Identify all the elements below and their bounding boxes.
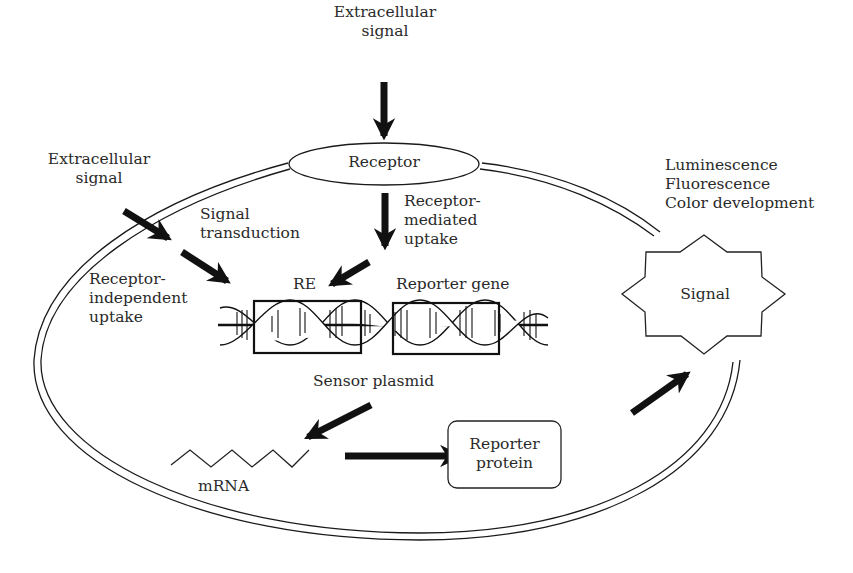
arrow-plasmid-to-mrna [308, 405, 371, 437]
label-extracellular-signal-left: Extracellular signal [44, 150, 154, 188]
label-signal-transduction: Signal transduction [200, 205, 300, 243]
label-extracellular-signal-top: Extracellular signal [330, 3, 440, 41]
label-receptor-mediated-uptake: Receptor- mediated uptake [404, 192, 481, 249]
arrows [124, 82, 687, 456]
arrow-to-re-from-receptor [332, 262, 369, 284]
label-receptor-independent-uptake: Receptor- independent uptake [89, 270, 187, 327]
label-reporter-gene: Reporter gene [396, 275, 510, 294]
label-re: RE [293, 275, 316, 294]
label-sensor-plasmid: Sensor plasmid [313, 372, 434, 391]
arrow-signal-transduction [182, 252, 227, 281]
label-outputs: Luminescence Fluorescence Color developm… [665, 156, 814, 213]
label-mrna: mRNA [198, 477, 249, 496]
mrna-zigzag [171, 450, 309, 467]
label-reporter-protein: Reporter protein [448, 435, 561, 473]
arrow-protein-to-signal [632, 374, 687, 413]
label-signal: Signal [660, 285, 750, 304]
label-receptor: Receptor [334, 153, 434, 172]
reporter-assay-diagram: Extracellular signal Receptor Extracellu… [0, 0, 853, 573]
arrow-extracellular-left [124, 211, 168, 238]
